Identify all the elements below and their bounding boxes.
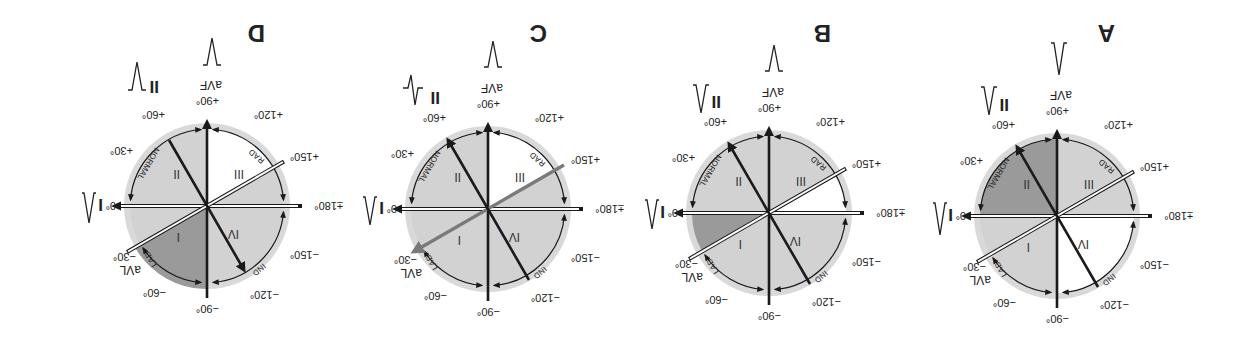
svg-text:+60°: +60° — [423, 112, 446, 124]
svg-text:−60°: −60° — [143, 287, 166, 299]
svg-text:I: I — [948, 205, 953, 224]
svg-text:aVF: aVF — [200, 78, 222, 92]
svg-text:±180°: ±180° — [876, 207, 905, 219]
svg-text:−90°: −90° — [758, 310, 781, 322]
waveform-lead-avf-b — [765, 45, 783, 71]
svg-text:C: C — [530, 20, 547, 47]
svg-text:III: III — [1084, 177, 1094, 191]
svg-text:+60°: +60° — [704, 116, 727, 128]
svg-text:−120°: −120° — [1100, 299, 1129, 311]
svg-text:II: II — [150, 77, 159, 96]
svg-text:+30°: +30° — [391, 148, 414, 160]
svg-text:+60°: +60° — [992, 119, 1015, 131]
svg-text:0°: 0° — [667, 207, 678, 219]
svg-text:IV: IV — [1078, 237, 1089, 251]
svg-text:−150°: −150° — [852, 256, 881, 268]
svg-text:II: II — [454, 170, 461, 184]
svg-text:−150°: −150° — [290, 249, 319, 261]
svg-text:aVL: aVL — [119, 263, 141, 277]
svg-text:II: II — [1023, 177, 1030, 191]
svg-text:IV: IV — [509, 230, 520, 244]
waveform-lead-i-b — [645, 200, 659, 229]
svg-text:+150°: +150° — [290, 151, 319, 163]
svg-text:−30°: −30° — [113, 251, 136, 263]
svg-text:aVF: aVF — [481, 81, 503, 95]
svg-text:−60°: −60° — [424, 290, 447, 302]
svg-text:II: II — [735, 174, 742, 188]
svg-text:I: I — [1027, 240, 1030, 254]
svg-text:−30°: −30° — [394, 254, 417, 266]
svg-text:D: D — [248, 20, 265, 47]
svg-text:0°: 0° — [105, 200, 116, 212]
svg-text:−90°: −90° — [477, 306, 500, 318]
svg-text:IV: IV — [228, 227, 239, 241]
waveform-lead-i-a — [933, 203, 947, 235]
svg-text:−150°: −150° — [1140, 259, 1169, 271]
svg-text:±180°: ±180° — [1164, 210, 1193, 222]
panel-letter: A — [1098, 20, 1115, 47]
waveform-lead-i-c — [363, 197, 377, 225]
svg-text:−120°: −120° — [531, 292, 560, 304]
svg-text:+30°: +30° — [960, 155, 983, 167]
svg-text:+90°: +90° — [477, 98, 500, 110]
svg-text:III: III — [234, 167, 244, 181]
svg-text:+90°: +90° — [1046, 105, 1069, 117]
svg-text:−60°: −60° — [705, 294, 728, 306]
svg-text:+120°: +120° — [254, 109, 283, 121]
svg-text:I: I — [458, 233, 461, 247]
svg-text:+90°: +90° — [196, 95, 219, 107]
waveform-lead-avf-a — [1051, 43, 1067, 75]
waveform-lead-ii-a — [981, 87, 997, 115]
svg-text:−120°: −120° — [812, 296, 841, 308]
svg-text:I: I — [379, 198, 384, 217]
svg-text:I: I — [98, 195, 103, 214]
svg-text:+60°: +60° — [142, 109, 165, 121]
svg-text:III: III — [796, 174, 806, 188]
svg-text:+120°: +120° — [816, 116, 845, 128]
svg-text:+30°: +30° — [110, 145, 133, 157]
waveform-lead-ii-c — [403, 75, 423, 105]
svg-text:−90°: −90° — [196, 303, 219, 315]
svg-text:±180°: ±180° — [595, 203, 624, 215]
svg-text:III: III — [515, 170, 525, 184]
waveform-lead-avf-d — [203, 38, 221, 65]
svg-text:aVF: aVF — [1050, 88, 1072, 102]
svg-text:−30°: −30° — [675, 258, 698, 270]
svg-text:−30°: −30° — [963, 261, 986, 273]
waveform-lead-ii-d — [128, 62, 146, 90]
svg-text:+150°: +150° — [852, 158, 881, 170]
svg-text:aVL: aVL — [681, 270, 703, 284]
svg-text:−90°: −90° — [1046, 313, 1069, 325]
svg-text:−120°: −120° — [250, 289, 279, 301]
svg-text:II: II — [1000, 95, 1009, 114]
svg-text:II: II — [173, 167, 180, 181]
svg-text:II: II — [712, 92, 721, 111]
ecg-axis-figure: A 0° +30° +60° +90° +120° +150° ±180° −1… — [0, 0, 1249, 343]
svg-text:B: B — [814, 20, 831, 47]
svg-text:+30°: +30° — [672, 152, 695, 164]
waveform-lead-i-d — [82, 193, 96, 223]
svg-text:−150°: −150° — [571, 252, 600, 264]
svg-text:I: I — [660, 202, 665, 221]
waveform-lead-avf-c — [484, 41, 502, 67]
svg-text:IV: IV — [790, 234, 801, 248]
svg-text:I: I — [177, 230, 180, 244]
svg-text:0°: 0° — [955, 210, 966, 222]
svg-text:+150°: +150° — [1140, 161, 1169, 173]
svg-text:aVL: aVL — [969, 273, 991, 287]
svg-text:−60°: −60° — [993, 297, 1016, 309]
waveform-lead-ii-b — [693, 85, 709, 113]
svg-text:+150°: +150° — [571, 154, 600, 166]
svg-text:I: I — [739, 237, 742, 251]
svg-text:II: II — [431, 88, 440, 107]
svg-text:0°: 0° — [386, 203, 397, 215]
hexaxial-diagrams: A 0° +30° +60° +90° +120° +150° ±180° −1… — [0, 0, 1249, 343]
svg-text:+120°: +120° — [1104, 119, 1133, 131]
svg-text:aVL: aVL — [400, 266, 422, 280]
svg-text:aVF: aVF — [762, 85, 784, 99]
svg-text:+90°: +90° — [758, 102, 781, 114]
svg-text:+120°: +120° — [535, 112, 564, 124]
svg-text:±180°: ±180° — [314, 200, 343, 212]
